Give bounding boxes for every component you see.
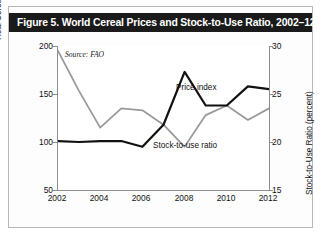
right-axis-tick-20: 20 [272,137,298,147]
x-axis-tick-2012: 2012 [251,193,285,203]
left-axis-title: Real Cereals Price Index (2002–04 = 100) [0,0,3,40]
figure-container: Figure 5. World Cereal Prices and Stock-… [0,0,322,235]
x-axis-tick-2002: 2002 [40,193,74,203]
figure-title-bar: Figure 5. World Cereal Prices and Stock-… [9,13,312,32]
series-line-stock-to-use-ratio [58,51,269,147]
series-label-stock-to-use-ratio: Stock-to-use ratio [153,141,217,150]
x-axis-tick-2008: 2008 [167,193,201,203]
x-axis-tick-2006: 2006 [124,193,158,203]
page-title: Figure 5. World Cereal Prices and Stock-… [9,17,315,28]
left-axis-tick-150: 150 [27,89,53,99]
left-axis-tick-100: 100 [27,137,53,147]
left-axis-tick-200: 200 [27,41,53,51]
x-axis-tick-2004: 2004 [82,193,116,203]
x-axis-tick-2010: 2010 [209,193,243,203]
plot-area: Source: FAO Price index Stock-to-use rat… [57,46,270,191]
right-axis-tick-30: 30 [272,41,298,51]
chart-svg [58,46,269,190]
series-label-price-index: Price index [176,83,217,92]
right-axis-tick-25: 25 [272,89,298,99]
right-axis-title: Stock-to-Use Ratio (percent) [305,35,314,195]
